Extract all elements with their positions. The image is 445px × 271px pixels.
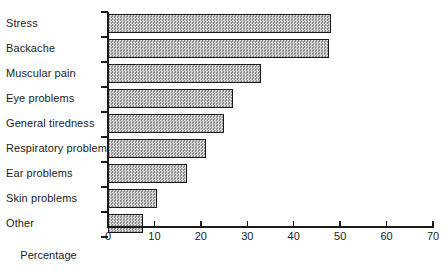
category-label: Stress [6, 18, 104, 29]
x-axis-tick [107, 221, 109, 227]
x-axis-title: Percentage [0, 249, 445, 261]
x-axis-tick [386, 221, 388, 227]
x-axis-tick-label: 60 [380, 230, 392, 242]
category-label: Backache [6, 43, 104, 54]
y-axis-tick [101, 36, 108, 38]
category-axis-labels: StressBackacheMuscular painEye problemsG… [6, 0, 104, 226]
x-axis-tick-label: 40 [288, 230, 300, 242]
category-label: Muscular pain [6, 68, 104, 79]
bar [108, 39, 329, 58]
x-axis-tick [200, 221, 202, 227]
bar [108, 189, 157, 208]
category-label: Other [6, 218, 104, 229]
x-axis-tick-label: 20 [195, 230, 207, 242]
bar [108, 89, 233, 108]
x-axis-tick-label: 50 [334, 230, 346, 242]
category-label: Respiratory problems [6, 143, 104, 154]
bar [108, 14, 331, 33]
y-axis-tick [101, 186, 108, 188]
x-axis-tick-label: 0 [105, 230, 111, 242]
x-axis-tick [154, 221, 156, 227]
y-axis-tick [101, 136, 108, 138]
x-axis-tick [339, 221, 341, 227]
bar [108, 164, 187, 183]
bar [108, 214, 143, 233]
plot-area [108, 8, 440, 226]
x-axis-tick [293, 221, 295, 227]
y-axis-line [107, 12, 109, 227]
category-label: Skin problems [6, 193, 104, 204]
category-label: Ear problems [6, 168, 104, 179]
category-label: General tiredness [6, 118, 104, 129]
y-axis-tick [101, 86, 108, 88]
bar-chart: StressBackacheMuscular painEye problemsG… [0, 0, 445, 271]
x-axis-tick-label: 10 [148, 230, 160, 242]
x-axis-tick [247, 221, 249, 227]
y-axis-tick [101, 11, 108, 13]
bar [108, 114, 224, 133]
y-axis-tick [101, 61, 108, 63]
x-axis-tick-label: 70 [427, 230, 439, 242]
y-axis-tick [101, 211, 108, 213]
bar [108, 64, 261, 83]
bar [108, 139, 206, 158]
x-axis-tick-label: 30 [241, 230, 253, 242]
category-label: Eye problems [6, 93, 104, 104]
x-axis-tick [432, 221, 434, 227]
y-axis-tick [101, 161, 108, 163]
y-axis-tick [101, 111, 108, 113]
x-axis-title-text: Percentage [20, 249, 76, 261]
